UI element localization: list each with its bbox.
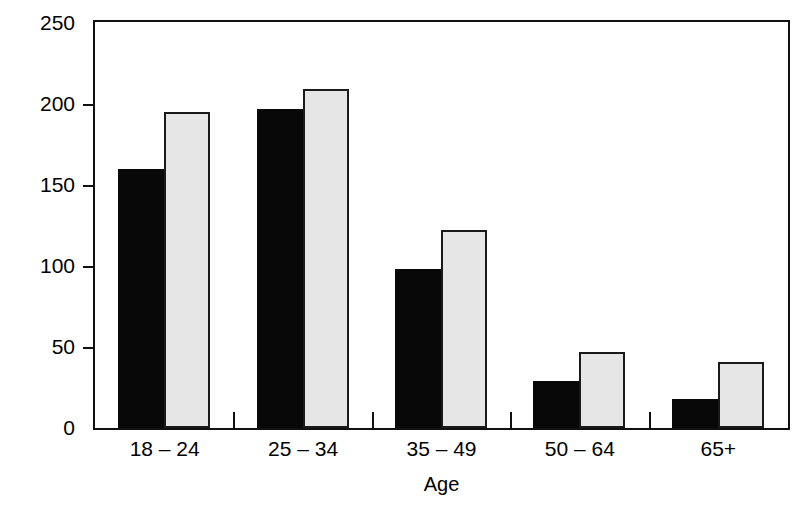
bar-1-1 [118, 169, 164, 428]
x-tick-label-1: 18 – 24 [130, 437, 200, 461]
bar-4-2 [579, 352, 625, 428]
x-tick-label-5: 65+ [700, 437, 736, 461]
y-tick-mark [83, 347, 95, 349]
bar-2-1 [257, 109, 303, 428]
bar-4-1 [533, 381, 579, 428]
plot-area: 050100150200250 [93, 20, 790, 430]
y-tick-label: 50 [52, 335, 75, 359]
y-tick-mark [83, 266, 95, 268]
bar-2-2 [303, 89, 349, 428]
x-separator-tick [233, 412, 235, 428]
x-axis-title: Age [93, 473, 790, 496]
x-tick-label-3: 35 – 49 [406, 437, 476, 461]
y-tick-label: 200 [40, 92, 75, 116]
y-tick-mark [83, 185, 95, 187]
y-tick-label: 250 [40, 11, 75, 35]
x-tick-label-2: 25 – 34 [268, 437, 338, 461]
x-tick-label-4: 50 – 64 [545, 437, 615, 461]
bar-1-2 [164, 112, 210, 428]
y-tick-label: 0 [63, 416, 75, 440]
y-tick-mark [83, 104, 95, 106]
y-tick-label: 100 [40, 254, 75, 278]
bar-3-1 [395, 269, 441, 428]
bar-5-1 [672, 399, 718, 428]
x-separator-tick [372, 412, 374, 428]
x-separator-tick [510, 412, 512, 428]
x-separator-tick [649, 412, 651, 428]
bar-chart-figure: Incidence per 100.000 050100150200250 18… [0, 0, 805, 512]
plot-inner: 050100150200250 [95, 22, 788, 428]
y-tick-label: 150 [40, 173, 75, 197]
bar-3-2 [441, 230, 487, 428]
bar-5-2 [718, 362, 764, 428]
